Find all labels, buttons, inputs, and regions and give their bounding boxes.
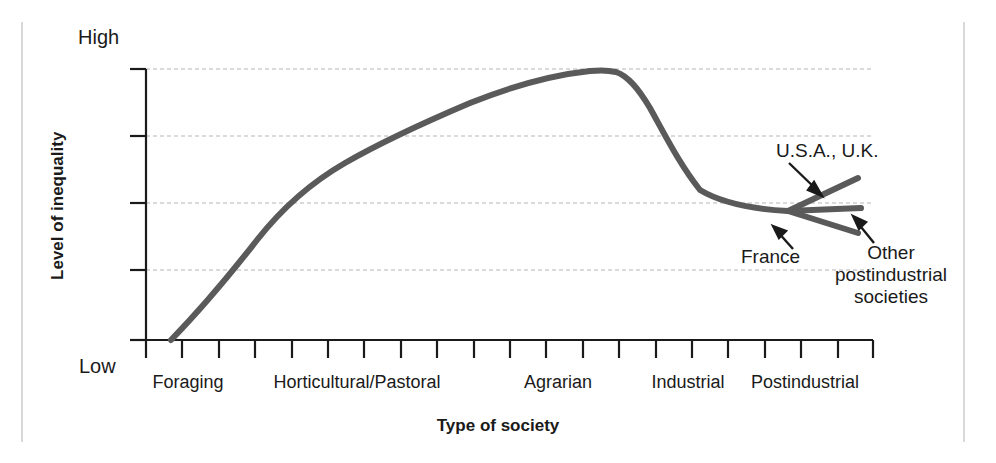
y-axis-high-label: High [78,26,119,49]
arrow-head-france [773,226,786,238]
curve-other-postindustrial [788,208,861,211]
inequality-chart-figure: High Low Level of inequality Type of soc… [0,0,996,463]
annotation-france: France [741,246,800,268]
arrow-head-other [853,216,866,229]
chart-plot-area [0,0,996,463]
y-axis-low-label: Low [79,355,116,378]
x-tick-label-horticultural-pastoral: Horticultural/Pastoral [232,372,482,393]
x-axis-title: Type of society [0,416,996,436]
x-axis [146,340,873,358]
x-tick-label-postindustrial: Postindustrial [710,372,900,393]
y-axis [130,69,146,340]
annotation-other-postindustrial-societies: Other postindustrial societies [832,242,950,308]
data-curves [171,70,861,340]
y-axis-title: Level of inequality [48,96,68,316]
annotation-usa-uk: U.S.A., U.K. [776,140,878,162]
curve-france [788,211,858,233]
curve-main [171,70,788,340]
